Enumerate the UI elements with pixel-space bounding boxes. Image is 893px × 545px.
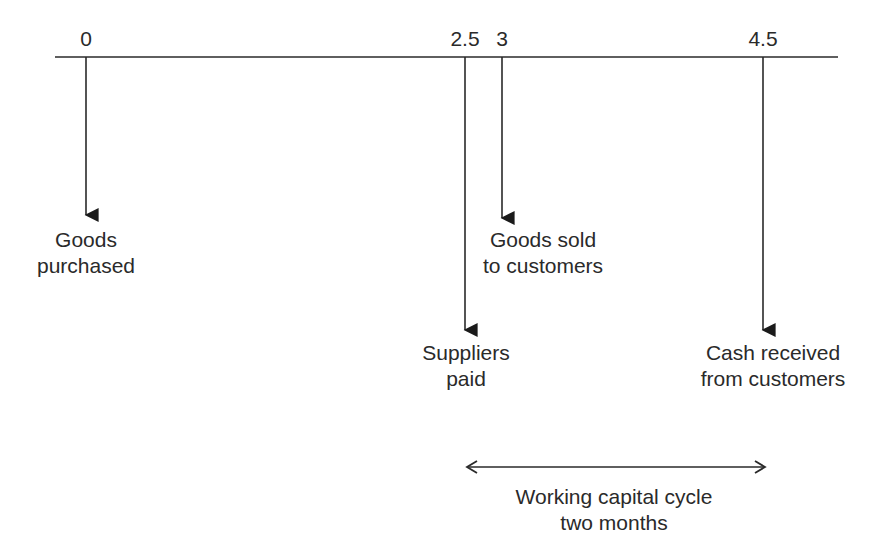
working-capital-span-arrow	[467, 461, 765, 473]
event-label-line: Suppliers	[422, 340, 510, 366]
event-label-line: purchased	[37, 253, 135, 279]
working-capital-cycle-label: Working capital cycle two months	[516, 484, 713, 536]
tick-label-4-5: 4.5	[748, 27, 777, 51]
event-label-line: from customers	[701, 366, 846, 392]
tick-label-3: 3	[496, 27, 508, 51]
event-label-cash-received: Cash received from customers	[701, 340, 846, 392]
event-label-line: Goods	[37, 227, 135, 253]
event-label-line: paid	[422, 366, 510, 392]
event-label-goods-purchased: Goods purchased	[37, 227, 135, 279]
span-label-line: Working capital cycle	[516, 484, 713, 510]
tick-label-2-5: 2.5	[450, 27, 479, 51]
event-label-line: Cash received	[701, 340, 846, 366]
span-label-line: two months	[516, 510, 713, 536]
event-arrows	[86, 57, 763, 330]
event-label-suppliers-paid: Suppliers paid	[422, 340, 510, 392]
event-label-line: to customers	[483, 253, 603, 279]
tick-label-0: 0	[80, 27, 92, 51]
event-label-line: Goods sold	[483, 227, 603, 253]
event-label-goods-sold: Goods sold to customers	[483, 227, 603, 279]
